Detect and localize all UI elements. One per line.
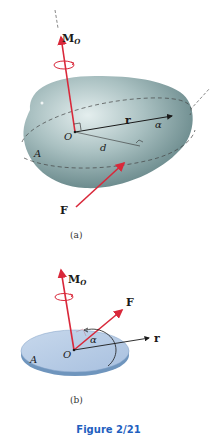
panel-b: MO F r α O A (b)	[21, 270, 160, 405]
label-origin-b: O	[63, 349, 71, 360]
figure-caption: Figure 2/21	[0, 424, 217, 435]
label-area-b: A	[29, 354, 37, 365]
moment-axis-dashed-line	[55, 10, 58, 28]
origin-point-b	[73, 349, 76, 352]
panel-label-a: (a)	[70, 230, 82, 240]
plane-axis-dashed-line	[190, 88, 210, 110]
label-force-a: F	[60, 204, 68, 217]
label-r-a: r	[125, 114, 131, 127]
label-alpha-b: α	[90, 334, 97, 345]
panel-a: MO O r α d A F (a)	[22, 10, 210, 240]
specular-highlight	[41, 102, 44, 105]
label-alpha-a: α	[155, 119, 162, 130]
figure-2-21: MO O r α d A F (a)	[0, 0, 217, 446]
origin-point-a	[74, 131, 77, 134]
label-moment-a: MO	[62, 32, 81, 46]
irregular-body	[23, 76, 192, 188]
label-r-b: r	[154, 332, 160, 345]
label-origin-a: O	[64, 131, 72, 142]
label-d-a: d	[100, 142, 106, 153]
label-force-b: F	[126, 296, 134, 309]
figure-svg: MO O r α d A F (a)	[0, 0, 217, 446]
label-area-a: A	[33, 148, 41, 159]
disk-top	[21, 330, 129, 372]
panel-label-b: (b)	[70, 395, 83, 405]
label-moment-b: MO	[68, 273, 87, 287]
